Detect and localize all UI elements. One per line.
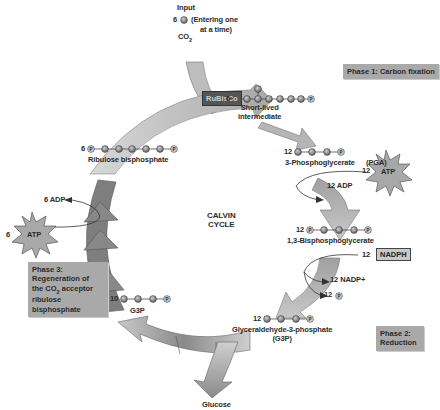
phase2-box: Phase 2:Reduction [376,326,424,351]
svg-text:P: P [308,228,311,233]
rubp-label: Ribulose bisphosphate [88,156,168,165]
adp-regeneration-product: 6 ADP [44,196,65,205]
intermediate-count: 6 [226,95,230,104]
atp-regeneration-count: 6 [6,231,10,240]
svg-text:P: P [366,228,369,233]
phosphate-product-count: 12 [324,291,332,300]
phase3-box: Phase 3: Regeneration of the CO2 accepto… [28,262,108,317]
arrow-bpg-to-g3p [276,258,340,318]
phase1-box: Phase 1: Carbon fixation [343,64,439,79]
atp-regeneration-label: ATP [27,231,41,240]
g3p-label: Glyceraldehyde-3-phosphate(G3P) [232,326,332,343]
nadph-count: 12 [362,251,370,260]
rubp-chain [88,146,178,153]
rubp-count: 6 [81,145,85,154]
svg-text:P: P [308,317,311,322]
nadp-product: 12 NADP+ [330,276,365,285]
intermediate-label: Short-livedintermediate [238,104,281,121]
atp-reduction-label: ATP [381,168,395,177]
adp-reduction-product: 12 ADP [327,182,352,191]
svg-text:P: P [165,297,168,302]
input-label: Input [177,4,195,13]
glucose-output-label: Glucose [202,401,231,410]
rubisco-enzyme-label: RuBisCo [202,91,242,106]
bpg-label: 1,3-Bisphosphoglycerate [287,237,374,246]
bpg-count: 12 [296,226,304,235]
g3p-count: 12 [253,315,261,324]
calvin-cycle-diagram: PP P PP P P PP P [0,0,440,410]
arrow-to-pga [258,122,316,150]
co2-label: CO2 [178,33,192,43]
svg-text:P: P [339,150,342,155]
input-note-line2: at a time) [200,26,232,35]
input-note-line1: (Entering one [191,16,238,25]
atp-reduction-count: 12 [362,167,370,176]
svg-text:P: P [309,97,312,102]
svg-text:P: P [172,147,175,152]
g3p-recycled-count: 10 [110,295,118,304]
bpg-chain [307,227,372,234]
g3p-recycled-chain [121,296,171,303]
calvin-cycle-title: CALVINCYCLE [207,211,236,229]
nadph-box: NADPH [376,248,411,261]
pga-chain [295,149,345,156]
co2-count: 6 [173,16,177,25]
g3p-recycled-label: G3P [130,307,145,316]
svg-text:P: P [89,147,92,152]
co2-ball [181,17,188,24]
pga-label: 3-Phosphoglycerate [285,159,355,168]
pga-count: 12 [284,148,292,157]
svg-text:P: P [337,294,340,299]
